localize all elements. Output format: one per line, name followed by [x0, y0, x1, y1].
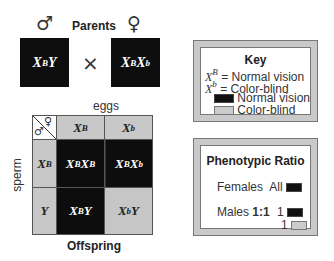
allele-base: X: [81, 156, 90, 172]
column-header-egg-2: Xb: [105, 116, 152, 139]
corner-cell: ♀ ♂: [33, 116, 56, 139]
males-row-2: 1: [281, 218, 307, 232]
allele-sup: B: [212, 67, 218, 77]
normal-vision-swatch: [287, 208, 303, 217]
male-symbol: ♂: [34, 125, 44, 138]
allele-sup: b: [138, 159, 143, 169]
offspring-cell: XBY: [57, 188, 104, 234]
color-blind-swatch: [214, 106, 234, 115]
offspring-label: Offspring: [67, 239, 121, 253]
phenotypic-ratio-title: Phenotypic Ratio: [201, 154, 310, 168]
phenotypic-ratio-inner: Phenotypic Ratio Females All Males 1:1 1…: [200, 145, 311, 229]
legend-color-blind: Color-blind: [214, 103, 295, 117]
allele-base: X: [73, 120, 82, 136]
females-row: Females All: [217, 180, 302, 194]
allele-base: X: [122, 120, 131, 136]
males-label: Males: [217, 205, 249, 219]
male-parent-genotype: XBY: [20, 38, 69, 87]
allele-base: X: [115, 156, 124, 172]
color-blind-swatch: [291, 221, 307, 230]
row-header-sperm-2: Y: [33, 188, 56, 234]
allele-base: X: [37, 156, 46, 172]
male-symbol: ♂: [36, 14, 53, 33]
key-panel-inner: Key XB = Normal vision Xb = Color-blind …: [200, 47, 311, 115]
offspring-cell: XBXb: [105, 140, 152, 187]
legend-label: Color-blind: [237, 103, 295, 117]
allele-base: X: [33, 55, 42, 71]
allele-base: X: [136, 55, 145, 71]
female-symbol: ♀: [127, 14, 141, 33]
females-value: All: [269, 180, 282, 194]
female-parent-genotype: XBXb: [111, 38, 160, 87]
allele-base: X: [121, 55, 130, 71]
male-count: 1: [277, 205, 284, 219]
allele-sup: B: [46, 159, 52, 169]
allele-base: X: [118, 203, 127, 219]
allele-base: X: [69, 203, 78, 219]
allele-sup: b: [146, 58, 151, 68]
eggs-label: eggs: [93, 99, 119, 113]
female-symbol: ♀: [44, 115, 52, 128]
males-row: Males 1:1 1: [217, 205, 303, 219]
allele-base: X: [130, 156, 139, 172]
allele-base: Y: [84, 203, 92, 219]
males-ratio: 1:1: [252, 205, 269, 219]
punnett-square: ♀ ♂ XB Xb XB Y XBXB XBXb XBY XbY: [32, 115, 153, 235]
phenotypic-ratio-panel: Phenotypic Ratio Females All Males 1:1 1…: [193, 138, 318, 236]
allele-sup: b: [212, 79, 217, 89]
normal-vision-swatch: [286, 183, 302, 192]
allele-base: Y: [48, 55, 57, 71]
key-panel: Key XB = Normal vision Xb = Color-blind …: [193, 40, 318, 122]
offspring-cell: XbY: [105, 188, 152, 234]
row-header-sperm-1: XB: [33, 140, 56, 187]
allele-base: Y: [131, 203, 139, 219]
key-title: Key: [201, 53, 310, 67]
allele-sup: b: [131, 123, 136, 133]
cross-symbol: ×: [82, 51, 99, 75]
allele-sup: B: [89, 159, 95, 169]
offspring-cell: XBXB: [57, 140, 104, 187]
normal-vision-swatch: [214, 94, 234, 103]
male-count: 1: [281, 218, 288, 232]
sperm-label: sperm: [10, 155, 24, 195]
parents-title: Parents: [72, 19, 116, 33]
column-header-egg-1: XB: [57, 116, 104, 139]
allele-base: Y: [41, 203, 49, 219]
allele-sup: B: [82, 123, 88, 133]
females-label: Females: [217, 180, 263, 194]
